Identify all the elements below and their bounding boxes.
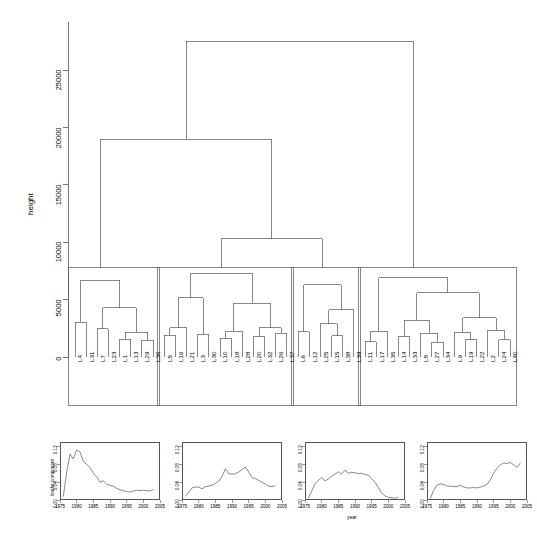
dendrogram-leaf-label: L16: [178, 352, 184, 362]
panel-plot: [291, 430, 414, 550]
dendrogram-leaf-label: L5: [167, 355, 173, 362]
dendrogram-leaf-label: L22: [479, 352, 485, 362]
dendrogram-leaf-label: L26: [278, 352, 284, 362]
timeseries-panel: 0.000.040.080.12197519801985199019952000…: [168, 430, 291, 550]
dendrogram-y-tick-label: 5000: [54, 299, 63, 357]
panel-data-line: [63, 450, 153, 496]
dendrogram-leaf-label: L11: [367, 352, 373, 362]
panel-data-line: [308, 470, 398, 498]
dendrogram-leaf-label: L2: [490, 355, 496, 362]
panel-plot: [168, 430, 291, 550]
dendrogram-leaf-label: L3: [200, 355, 206, 362]
dendrogram-leaf-label: L14: [401, 352, 407, 362]
panel-data-line: [430, 463, 520, 499]
timeseries-panels: 0.000.040.080.12197519801985199019952000…: [0, 430, 537, 550]
dendrogram-leaf-label: L20: [256, 352, 262, 362]
dendrogram-leaf-label: L32: [267, 352, 273, 362]
dendrogram-leaf-label: L10: [222, 352, 228, 362]
dendrogram-leaf-label: L33: [412, 352, 418, 362]
timeseries-panel: 0.000.040.080.12197519801985199019952000…: [413, 430, 536, 550]
dendrogram-leaf-label: L39: [356, 352, 362, 362]
panel-y-axis-title: leader component: [50, 459, 55, 496]
dendrogram-leaf-label: L8: [423, 355, 429, 362]
dendrogram-leaf-label: L13: [133, 352, 139, 362]
dendrogram-leaf-label: L36: [155, 352, 161, 362]
dendrogram-leaf-label: L40: [512, 352, 518, 362]
dendrogram-leaf-label: L31: [89, 352, 95, 362]
dendrogram-leaf-label: L7: [100, 355, 106, 362]
dendrogram-y-axis-title: height: [26, 193, 35, 215]
dendrogram-leaf-label: L24: [501, 352, 507, 362]
dendrogram-leaf-label: L17: [379, 352, 385, 362]
timeseries-panel: 0.000.040.080.12197519801985199019952000…: [46, 430, 169, 550]
dendrogram-leaf-label: L1: [122, 355, 128, 362]
dendrogram-y-tick-label: 15000: [54, 184, 63, 242]
figure-root: height 0500010000150002000025000 L4L31L7…: [0, 0, 537, 550]
dendrogram-y-tick-label: 10000: [54, 242, 63, 300]
dendrogram-leaf-label: L15: [334, 352, 340, 362]
dendrogram-leaf-label: L23: [111, 352, 117, 362]
dendrogram-leaf-label: L29: [144, 352, 150, 362]
dendrogram-y-tick-label: 20000: [54, 127, 63, 185]
dendrogram-leaf-label: L38: [345, 352, 351, 362]
dendrogram-y-tick-label: 0: [54, 357, 63, 415]
dendrogram-y-tick-label: 25000: [54, 70, 63, 128]
timeseries-panel: 0.000.040.080.12197519801985199019952000…: [291, 430, 414, 550]
dendrogram-leaf-label: L35: [390, 352, 396, 362]
dendrogram-leaf-label: L9: [457, 355, 463, 362]
dendrogram-leaf-label: L21: [189, 352, 195, 362]
dendrogram-leaf-label: L12: [312, 352, 318, 362]
dendrogram-drawing: [0, 0, 537, 430]
dendrogram-leaf-label: L28: [245, 352, 251, 362]
dendrogram-leaf-label: L6: [300, 355, 306, 362]
dendrogram-leaf-label: L34: [445, 352, 451, 362]
dendrogram-leaf-label: L25: [323, 352, 329, 362]
dendrogram-panel: height 0500010000150002000025000 L4L31L7…: [0, 0, 537, 430]
dendrogram-leaf-label: L4: [77, 355, 83, 362]
panel-x-axis-title: year: [347, 514, 357, 520]
panel-data-line: [185, 467, 275, 496]
panel-plot: [413, 430, 536, 550]
dendrogram-leaf-label: L27: [434, 352, 440, 362]
dendrogram-leaf-label: L19: [468, 352, 474, 362]
panel-plot: [46, 430, 169, 550]
dendrogram-leaf-label: L30: [211, 352, 217, 362]
dendrogram-leaf-label: L18: [234, 352, 240, 362]
dendrogram-leaf-label: L37: [289, 352, 295, 362]
